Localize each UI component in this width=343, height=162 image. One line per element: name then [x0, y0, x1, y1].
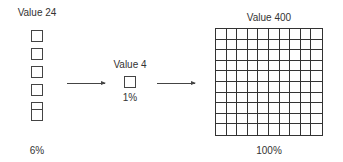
grid-cell [216, 50, 227, 61]
grid-cell [216, 124, 227, 135]
grid-cell [258, 29, 269, 40]
grid-cell [258, 61, 269, 72]
grid-cell [227, 61, 238, 72]
unit-square [31, 109, 43, 121]
grid-cell [237, 82, 248, 93]
grid-cell [227, 71, 238, 82]
grid-cell [237, 71, 248, 82]
grid-cell [227, 114, 238, 125]
grid-cell [216, 40, 227, 51]
grid-cell [227, 40, 238, 51]
grid-cell [290, 40, 301, 51]
grid-cell [248, 114, 259, 125]
grid-cell [248, 71, 259, 82]
grid-cell [248, 93, 259, 104]
grid-cell [227, 93, 238, 104]
grid-cell [280, 124, 291, 135]
grid-cell [237, 29, 248, 40]
grid-cell [290, 61, 301, 72]
grid-cell [280, 61, 291, 72]
left-title: Value 24 [18, 7, 57, 18]
grid-cell [227, 50, 238, 61]
grid-cell [269, 29, 280, 40]
grid-cell [269, 50, 280, 61]
grid-cell [227, 29, 238, 40]
grid-cell [290, 114, 301, 125]
unit-square [31, 66, 43, 78]
arrow-right-icon [157, 83, 195, 84]
grid-cell [301, 114, 312, 125]
grid-cell [280, 29, 291, 40]
grid-cell [301, 50, 312, 61]
left-percent: 6% [30, 145, 44, 156]
grid-cell [216, 71, 227, 82]
grid-cell [216, 82, 227, 93]
grid-cell [301, 29, 312, 40]
grid-cell [237, 61, 248, 72]
grid-cell [280, 71, 291, 82]
grid-cell [216, 61, 227, 72]
unit-square [31, 48, 43, 60]
grid-cell [248, 124, 259, 135]
grid-cell [311, 82, 322, 93]
grid-cell [290, 50, 301, 61]
grid-cell [301, 82, 312, 93]
grid-cell [248, 61, 259, 72]
grid-cell [290, 124, 301, 135]
grid-cell [237, 124, 248, 135]
grid-cell [237, 40, 248, 51]
grid-cell [227, 124, 238, 135]
grid-cell [280, 40, 291, 51]
grid-cell [248, 103, 259, 114]
grid-cell [258, 40, 269, 51]
grid-cell [258, 124, 269, 135]
grid-cell [258, 82, 269, 93]
grid-cell [301, 40, 312, 51]
grid-cell [311, 61, 322, 72]
grid-cell [269, 93, 280, 104]
grid-cell [311, 40, 322, 51]
arrow-right-icon [67, 83, 105, 84]
grid-cell [258, 114, 269, 125]
grid-cell [269, 40, 280, 51]
grid-cell [280, 93, 291, 104]
grid-cell [311, 93, 322, 104]
grid-cell [301, 71, 312, 82]
grid-cell [311, 29, 322, 40]
unit-square [31, 30, 43, 42]
grid-cell [237, 103, 248, 114]
grid-cell [258, 93, 269, 104]
grid-cell [216, 93, 227, 104]
grid-cell [237, 50, 248, 61]
grid-cell [290, 103, 301, 114]
grid-cell [290, 93, 301, 104]
grid-cell [311, 114, 322, 125]
grid-cell [258, 71, 269, 82]
grid-cell [216, 103, 227, 114]
right-percent: 100% [256, 145, 282, 156]
grid-cell [237, 93, 248, 104]
grid-cell [216, 29, 227, 40]
grid-cell [301, 124, 312, 135]
grid-cell [269, 103, 280, 114]
grid-cell [269, 114, 280, 125]
grid-cell [269, 71, 280, 82]
grid-cell [227, 82, 238, 93]
grid-cell [269, 61, 280, 72]
grid-cell [311, 103, 322, 114]
grid-cell [248, 40, 259, 51]
unit-square [31, 84, 43, 96]
grid-cell [290, 29, 301, 40]
grid-cell [280, 82, 291, 93]
grid-cell [280, 114, 291, 125]
grid-cell [311, 71, 322, 82]
middle-title: Value 4 [113, 59, 146, 70]
grid-cell [237, 114, 248, 125]
grid-cell [269, 124, 280, 135]
grid-cell [290, 71, 301, 82]
grid-cell [301, 93, 312, 104]
grid-cell [311, 50, 322, 61]
grid-cell [258, 103, 269, 114]
grid-cell [248, 82, 259, 93]
grid-cell [301, 103, 312, 114]
